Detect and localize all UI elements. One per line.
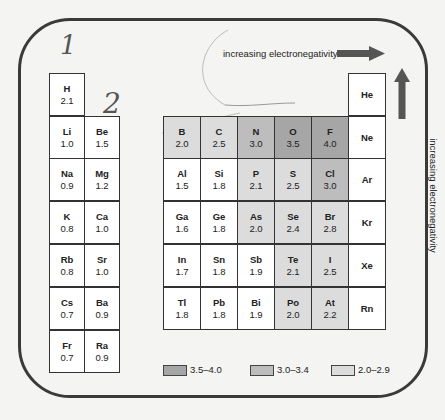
horizontal-arrow-label: increasing electronegativity [223, 48, 338, 59]
element-Kr: Kr [348, 201, 386, 244]
handwritten-1: 1 [60, 30, 77, 60]
element-Ar: Ar [348, 158, 386, 201]
element-F: F4.0 [311, 116, 349, 159]
element-Se: Se2.4 [274, 201, 312, 244]
element-Sn: Sn1.8 [200, 244, 238, 287]
element-Br: Br2.8 [311, 201, 349, 244]
vertical-arrow-label: increasing electronegativity [428, 131, 439, 261]
legend-label-3.0-3.4: 3.0–3.4 [277, 364, 309, 375]
element-As: As2.0 [237, 201, 275, 244]
element-I: I2.5 [311, 244, 349, 287]
element-Tl: Tl1.8 [163, 287, 201, 330]
element-Ra: Ra0.9 [84, 330, 120, 373]
element-C: C2.5 [200, 116, 238, 159]
element-At: At2.2 [311, 287, 349, 330]
element-Pb: Pb1.8 [200, 287, 238, 330]
element-Po: Po2.0 [274, 287, 312, 330]
element-Ge: Ge1.8 [200, 201, 238, 244]
element-Al: Al1.5 [163, 158, 201, 201]
element-S: S2.5 [274, 158, 312, 201]
element-Ga: Ga1.6 [163, 201, 201, 244]
element-Cs: Cs0.7 [49, 287, 85, 330]
element-Mg: Mg1.2 [84, 158, 120, 201]
legend-swatch-3.0-3.4 [250, 365, 274, 376]
element-Na: Na0.9 [49, 158, 85, 201]
right-arrow-icon [337, 46, 387, 62]
element-N: N3.0 [237, 116, 275, 159]
up-arrow-icon [393, 68, 411, 120]
element-Ne: Ne [348, 116, 386, 159]
legend-swatch-3.5-4.0 [163, 365, 187, 376]
element-Rb: Rb0.8 [49, 244, 85, 287]
element-H: H2.1 [49, 73, 85, 116]
element-Xe: Xe [348, 244, 386, 287]
element-Cl: Cl3.0 [311, 158, 349, 201]
element-Li: Li1.0 [49, 116, 85, 159]
element-K: K0.8 [49, 201, 85, 244]
legend-label-3.5-4.0: 3.5–4.0 [190, 364, 222, 375]
element-Bi: Bi1.9 [237, 287, 275, 330]
element-Rn: Rn [348, 287, 386, 330]
element-Be: Be1.5 [84, 116, 120, 159]
legend-swatch-2.0-2.9 [331, 365, 355, 376]
element-Ba: Ba0.9 [84, 287, 120, 330]
element-P: P2.1 [237, 158, 275, 201]
element-Te: Te2.1 [274, 244, 312, 287]
element-He: He [348, 73, 386, 116]
element-Fr: Fr0.7 [49, 330, 85, 373]
element-O: O3.5 [274, 116, 312, 159]
element-Sr: Sr1.0 [84, 244, 120, 287]
element-Sb: Sb1.9 [237, 244, 275, 287]
element-B: B2.0 [163, 116, 201, 159]
element-In: In1.7 [163, 244, 201, 287]
element-Ca: Ca1.0 [84, 201, 120, 244]
element-Si: Si1.8 [200, 158, 238, 201]
legend-label-2.0-2.9: 2.0–2.9 [358, 364, 390, 375]
